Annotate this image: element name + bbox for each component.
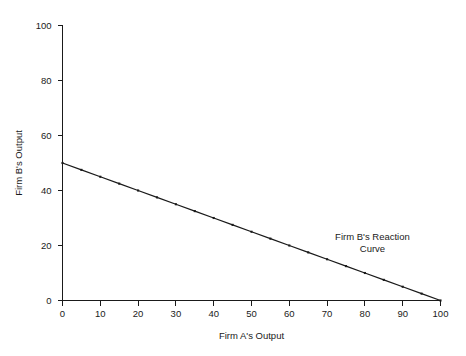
y-tick-label: 80 (41, 75, 52, 86)
series-marker (175, 203, 177, 205)
x-tick-label: 10 (95, 308, 106, 319)
x-tick-label: 100 (433, 308, 449, 319)
series-marker (269, 238, 271, 240)
series-marker (156, 196, 158, 198)
series-marker (250, 231, 252, 233)
series-marker (364, 272, 366, 274)
series-marker (383, 279, 385, 281)
series-marker (137, 189, 139, 191)
reaction-curve-label: Curve (360, 243, 385, 254)
y-axis-title: Firm B's Output (13, 130, 24, 196)
x-tick-label: 60 (284, 308, 295, 319)
x-tick-label: 40 (208, 308, 219, 319)
series-marker (232, 224, 234, 226)
reaction-curve-label: Firm B's Reaction (335, 231, 410, 242)
x-tick-label: 20 (133, 308, 144, 319)
y-tick-label: 40 (41, 185, 52, 196)
series-marker (402, 286, 404, 288)
reaction-curve-chart: 020406080100 0102030405060708090100 Firm… (0, 0, 466, 356)
y-axis-ticks: 020406080100 (36, 20, 63, 306)
y-tick-label: 0 (46, 295, 51, 306)
x-axis-title: Firm A's Output (219, 330, 285, 341)
x-tick-label: 30 (171, 308, 182, 319)
chart-canvas: 020406080100 0102030405060708090100 Firm… (0, 0, 466, 356)
x-tick-label: 0 (60, 308, 65, 319)
y-tick-label: 60 (41, 130, 52, 141)
x-axis-ticks: 0102030405060708090100 (60, 301, 449, 319)
series-marker (99, 176, 101, 178)
series-marker (213, 217, 215, 219)
series-marker (345, 265, 347, 267)
x-tick-label: 50 (246, 308, 257, 319)
y-tick-label: 20 (41, 240, 52, 251)
series-marker (118, 183, 120, 185)
series-marker (288, 244, 290, 246)
x-tick-label: 70 (322, 308, 333, 319)
series-marker (194, 210, 196, 212)
x-tick-label: 80 (360, 308, 371, 319)
y-tick-label: 100 (36, 20, 52, 31)
series-marker (421, 293, 423, 295)
chart-annotations: Firm B's ReactionCurve (335, 231, 410, 254)
series-marker (439, 299, 441, 301)
series-marker (307, 251, 309, 253)
x-tick-label: 90 (397, 308, 408, 319)
series-marker (61, 162, 63, 164)
series-marker (80, 169, 82, 171)
series-marker (326, 258, 328, 260)
